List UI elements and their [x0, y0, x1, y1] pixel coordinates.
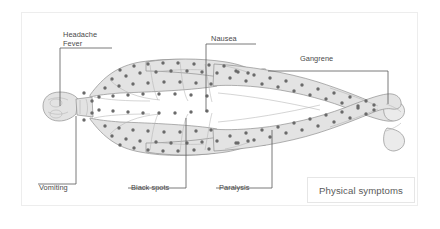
human-figure	[43, 59, 405, 156]
callout-nausea-line1: Nausea	[211, 34, 237, 43]
physical-symptoms-title-box: Physical symptoms	[307, 177, 415, 203]
callout-gangrene-line1: Gangrene	[300, 54, 333, 63]
callout-gangrene: Gangrene	[300, 54, 333, 63]
callout-black-spots-line1: Black spots	[131, 183, 169, 192]
callout-vomiting: Vomiting	[39, 183, 68, 192]
physical-symptoms-title: Physical symptoms	[319, 185, 403, 196]
lower-leg	[213, 94, 401, 151]
callout-headache-fever-line2: Fever	[63, 39, 97, 48]
callout-paralysis-line1: Paralysis	[219, 183, 249, 192]
lower-foot	[384, 128, 405, 151]
callout-nausea: Nausea	[211, 34, 237, 43]
callout-black-spots: Black spots	[131, 183, 169, 192]
callout-headache-fever: Headache Fever	[63, 30, 97, 48]
neck-shape	[76, 97, 93, 117]
callout-paralysis: Paralysis	[219, 183, 249, 192]
leader-vomiting	[38, 116, 76, 184]
callout-vomiting-line1: Vomiting	[39, 183, 68, 192]
diagram-canvas: Headache Fever Nausea Gangrene Vomiting …	[0, 0, 440, 229]
callout-headache-fever-line1: Headache	[63, 30, 97, 39]
